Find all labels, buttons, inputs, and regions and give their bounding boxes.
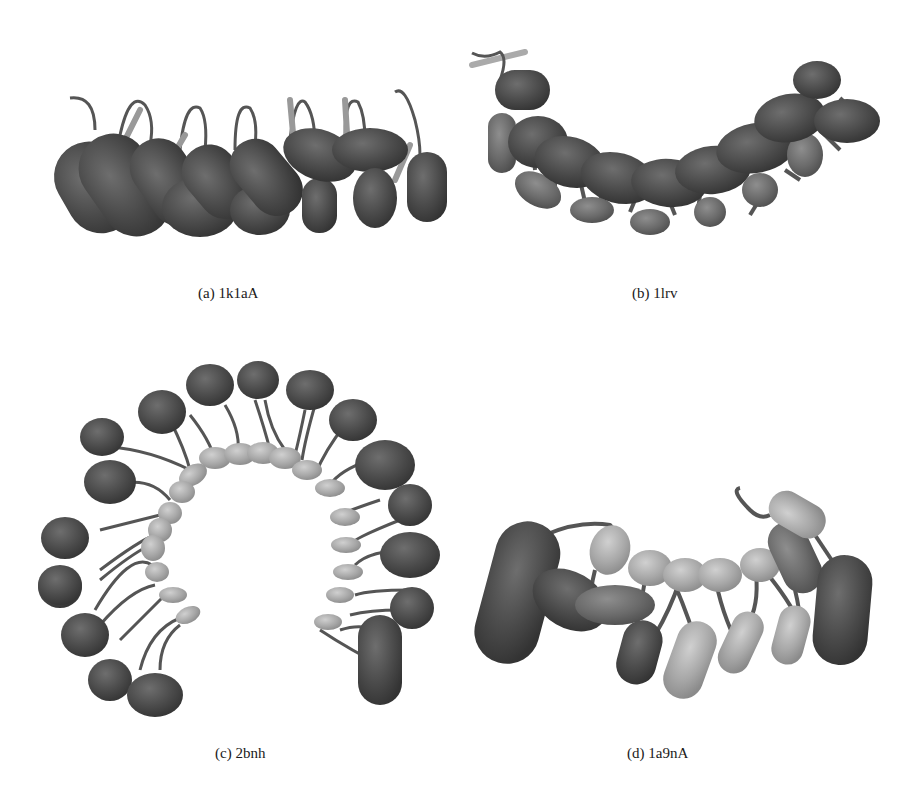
panel-b-structure (460, 40, 880, 250)
protein-structure-1a9nA (460, 450, 890, 710)
protein-structure-1k1aA (40, 80, 460, 250)
outer-helices (38, 361, 440, 717)
caption-d-text: (d) 1a9nA (627, 745, 688, 761)
caption-a-text: (a) 1k1aA (198, 285, 258, 301)
inner-helices (141, 442, 363, 630)
panel-a-structure (40, 80, 460, 250)
helix-cylinders (467, 484, 874, 704)
caption-c: (c) 2bnh (215, 745, 265, 762)
protein-structure-1lrv (460, 40, 880, 250)
protein-structure-2bnh (40, 350, 460, 720)
caption-a: (a) 1k1aA (198, 285, 258, 302)
helix-cylinders (488, 61, 880, 235)
caption-d: (d) 1a9nA (627, 745, 688, 762)
helix-cylinders (41, 119, 447, 251)
caption-b-text: (b) 1lrv (632, 285, 677, 301)
caption-b: (b) 1lrv (632, 285, 677, 302)
panel-c-structure (40, 350, 460, 720)
caption-c-text: (c) 2bnh (215, 745, 265, 761)
panel-d-structure (460, 450, 890, 710)
